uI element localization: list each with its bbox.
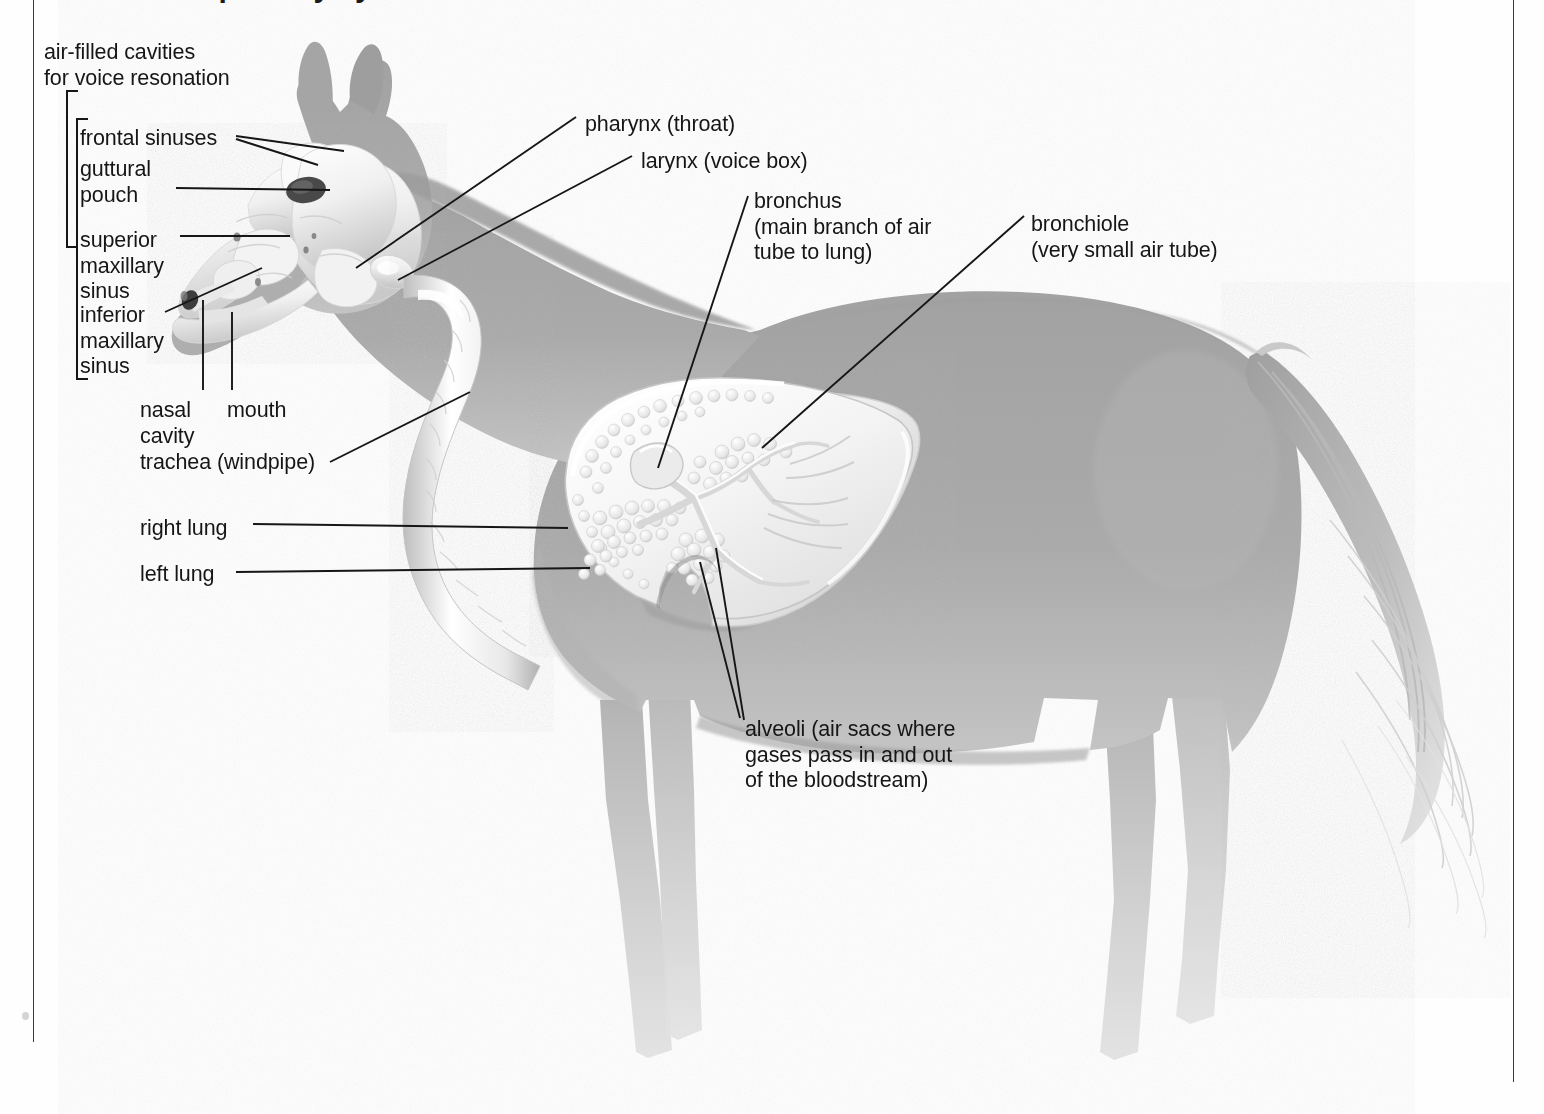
- label-larynx: larynx (voice box): [641, 149, 808, 175]
- label-guttural-pouch: gutturalpouch: [80, 157, 151, 208]
- label-larynx-line1: larynx (voice box): [641, 149, 808, 173]
- label-mouth: mouth: [227, 398, 286, 424]
- label-superior-maxillary-sinus-line1: superior: [80, 228, 157, 252]
- label-right-lung-line1: right lung: [140, 516, 227, 540]
- label-trachea: trachea (windpipe): [140, 450, 315, 476]
- label-bronchus-line3: tube to lung): [754, 240, 872, 264]
- label-guttural-pouch-line2: pouch: [80, 183, 138, 207]
- label-superior-maxillary-sinus-line2: maxillary: [80, 254, 164, 278]
- horse-leg-hind-near: [1100, 700, 1156, 1060]
- label-right-lung: right lung: [140, 516, 227, 542]
- label-bronchus-line1: bronchus: [754, 189, 842, 213]
- label-bronchiole-line1: bronchiole: [1031, 212, 1129, 236]
- label-inferior-maxillary-sinus-line1: inferior: [80, 303, 145, 327]
- diagram-page: the respiratory system of the horse: [0, 0, 1544, 1114]
- label-frontal-sinuses: frontal sinuses: [80, 126, 217, 152]
- label-nasal-cavity-line1: nasal: [140, 398, 191, 422]
- label-bronchus-line2: (main branch of air: [754, 215, 931, 239]
- label-pharynx-line1: pharynx (throat): [585, 112, 735, 136]
- label-trachea-line1: trachea (windpipe): [140, 450, 315, 474]
- label-mouth-line1: mouth: [227, 398, 286, 422]
- label-alveoli-line1: alveoli (air sacs where: [745, 717, 955, 741]
- label-alveoli: alveoli (air sacs wheregases pass in and…: [745, 717, 955, 794]
- bronchus-shape: [631, 443, 683, 489]
- label-nasal-cavity-line2: cavity: [140, 424, 194, 448]
- label-alveoli-line2: gases pass in and out: [745, 743, 952, 767]
- label-superior-maxillary-sinus: superiormaxillarysinus: [80, 228, 164, 305]
- label-superior-maxillary-sinus-line3: sinus: [80, 279, 130, 303]
- label-air-filled-cavities: air-filled cavitiesfor voice resonation: [44, 40, 230, 91]
- label-alveoli-line3: of the bloodstream): [745, 768, 928, 792]
- label-inferior-maxillary-sinus: inferiormaxillarysinus: [80, 303, 164, 380]
- label-bronchiole-line2: (very small air tube): [1031, 238, 1218, 262]
- label-left-lung: left lung: [140, 562, 214, 588]
- label-bronchus: bronchus(main branch of airtube to lung): [754, 189, 931, 266]
- label-guttural-pouch-line1: guttural: [80, 157, 151, 181]
- label-pharynx: pharynx (throat): [585, 112, 735, 138]
- label-bronchiole: bronchiole(very small air tube): [1031, 212, 1218, 263]
- label-air-filled-cavities-line2: for voice resonation: [44, 66, 230, 90]
- horse-leg-hind-far: [1168, 660, 1230, 1024]
- label-inferior-maxillary-sinus-line2: maxillary: [80, 329, 164, 353]
- label-nasal-cavity: nasalcavity: [140, 398, 194, 449]
- label-air-filled-cavities-line1: air-filled cavities: [44, 40, 195, 64]
- label-inferior-maxillary-sinus-line3: sinus: [80, 354, 130, 378]
- label-left-lung-line1: left lung: [140, 562, 214, 586]
- label-frontal-sinuses-line1: frontal sinuses: [80, 126, 217, 150]
